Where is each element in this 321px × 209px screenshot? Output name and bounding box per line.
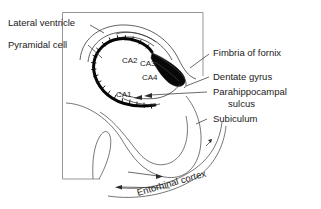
leader-entorhinal-upper (128, 172, 158, 176)
label-subiculum: Subiculum (213, 113, 257, 124)
label-entorhinal-cortex: Entorhinal cortex (136, 168, 208, 198)
label-ca3: CA3 (140, 59, 156, 68)
label-pyramidal-cell: Pyramidal cell (8, 39, 67, 50)
label-fimbria-of-fornix: Fimbria of fornix (213, 47, 281, 58)
leader-dentate-gyrus (186, 77, 209, 86)
hippocampus-diagram: Lateral ventricle Pyramidal cell Fimbria… (0, 0, 321, 209)
fimbria-of-fornix-shape (150, 52, 186, 88)
leader-fimbria (190, 54, 209, 68)
leader-cortex-tick (206, 142, 210, 146)
label-parahippocampal-sulcus-line2: sulcus (228, 98, 255, 109)
label-parahippocampal-sulcus-line1: Parahippocampal (213, 86, 287, 97)
label-lateral-ventricle: Lateral ventricle (8, 17, 75, 28)
label-ca4: CA4 (142, 73, 158, 82)
leader-subiculum (196, 119, 207, 124)
label-ca2: CA2 (122, 56, 138, 65)
leader-parahippocampal-sulcus (150, 92, 207, 95)
label-ca1: CA1 (116, 90, 132, 99)
label-dentate-gyrus: Dentate gyrus (213, 71, 272, 82)
